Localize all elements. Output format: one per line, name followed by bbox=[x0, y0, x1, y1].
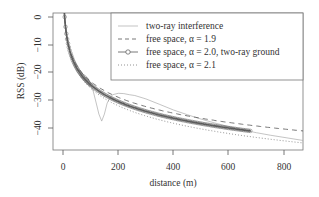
x-tick-label: 200 bbox=[111, 162, 126, 172]
circle-marker-icon bbox=[62, 0, 66, 2]
y-tick-label: 0 bbox=[33, 14, 43, 19]
x-tick-label: 0 bbox=[61, 162, 66, 172]
circle-marker-icon bbox=[126, 50, 130, 54]
y-tick-label: −40 bbox=[33, 120, 43, 135]
y-tick-label: −30 bbox=[33, 92, 43, 107]
legend-label: free space, α = 2.1 bbox=[146, 60, 216, 70]
y-axis: 0 −10 −20 −30 −40 RSS (dB) bbox=[16, 14, 53, 135]
x-tick-label: 400 bbox=[166, 162, 181, 172]
y-axis-title: RSS (dB) bbox=[16, 63, 27, 100]
legend-label: two-ray interference bbox=[146, 21, 223, 31]
x-tick-label: 800 bbox=[277, 162, 292, 172]
rss-vs-distance-chart: 0 200 400 600 800 distance (m) 0 −10 −20… bbox=[0, 0, 319, 197]
x-tick-label: 600 bbox=[221, 162, 236, 172]
y-tick-label: −10 bbox=[33, 37, 43, 52]
x-axis-title: distance (m) bbox=[149, 178, 196, 189]
x-axis: 0 200 400 600 800 distance (m) bbox=[61, 150, 292, 189]
legend-label: free space, α = 1.9 bbox=[146, 34, 216, 44]
legend-label: free space, α = 2.0, two-ray ground bbox=[146, 47, 280, 57]
y-tick-label: −20 bbox=[33, 64, 43, 79]
legend: two-ray interference free space, α = 1.9… bbox=[111, 13, 303, 80]
